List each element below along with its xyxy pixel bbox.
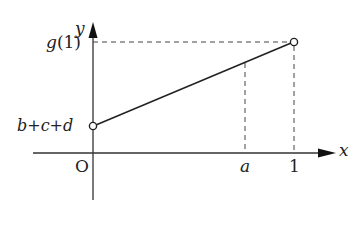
intercept-label: b+c+d — [17, 118, 73, 134]
g1-label: g(1) — [46, 34, 81, 51]
one-label: 1 — [289, 158, 300, 175]
function-segment — [97, 43, 291, 125]
graph-diagram: y g(1) b+c+d O a 1 x — [0, 0, 361, 227]
open-circle-end — [290, 38, 297, 45]
y-axis-arrow-icon — [89, 22, 98, 38]
open-circle-start — [89, 122, 96, 129]
x-axis-label: x — [339, 142, 349, 159]
a-label: a — [240, 158, 250, 175]
x-axis-arrow-icon — [318, 149, 336, 158]
origin-label: O — [75, 158, 89, 175]
